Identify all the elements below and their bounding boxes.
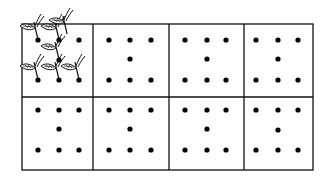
plot-6 (106, 107, 153, 152)
plot-7 (182, 107, 228, 152)
grid-lines (22, 24, 313, 170)
plot-8 (253, 107, 300, 152)
plot-4 (253, 37, 300, 82)
plot-3 (182, 37, 228, 82)
plot-5 (35, 107, 81, 152)
plot-2 (106, 37, 153, 82)
planting-grid-diagram (0, 0, 328, 181)
seedling-icons (20, 8, 85, 80)
